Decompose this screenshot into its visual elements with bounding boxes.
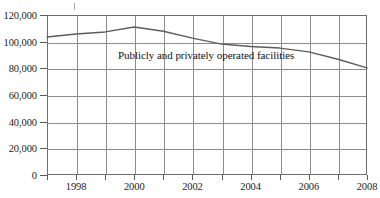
y-axis-tick-label: 80,000 — [9, 63, 37, 74]
series-annotation-label: Publicly and privately operated faciliti… — [118, 49, 294, 61]
x-axis-tick-mark — [280, 175, 281, 180]
y-axis-tick-mark — [40, 68, 47, 69]
y-axis-tick-label: 40,000 — [9, 116, 37, 127]
y-axis-tick-mark — [40, 42, 47, 43]
x-axis-tick-mark — [105, 175, 106, 180]
x-axis-tick-mark — [251, 175, 252, 180]
y-axis: 020,00040,00060,00080,000100,000120,000 — [0, 0, 47, 198]
x-axis: 199820002002200420062008 — [0, 175, 380, 198]
x-axis-tick-mark — [367, 175, 368, 180]
y-axis-tick-mark — [40, 122, 47, 123]
x-axis-tick-mark — [163, 175, 164, 180]
x-axis-tick-label: 1998 — [66, 181, 87, 192]
x-axis-tick-mark — [309, 175, 310, 180]
y-axis-tick-label: 120,000 — [4, 10, 37, 21]
top-axis-tick-mark — [74, 3, 75, 10]
x-axis-tick-mark — [134, 175, 135, 180]
series-line-publicly-and-privately-operated-facilities — [47, 27, 367, 68]
series-layer — [47, 15, 367, 175]
x-axis-tick-mark — [76, 175, 77, 180]
x-axis-tick-mark — [192, 175, 193, 180]
x-axis-tick-mark — [47, 175, 48, 180]
x-axis-tick-mark — [222, 175, 223, 180]
y-axis-tick-label: 100,000 — [4, 36, 37, 47]
line-chart: 020,00040,00060,00080,000100,000120,000 … — [0, 0, 380, 198]
y-axis-tick-label: 60,000 — [9, 90, 37, 101]
y-axis-tick-mark — [40, 95, 47, 96]
x-axis-tick-label: 2008 — [357, 181, 378, 192]
x-axis-tick-label: 2006 — [299, 181, 320, 192]
y-axis-tick-label: 20,000 — [9, 143, 37, 154]
x-axis-tick-mark — [338, 175, 339, 180]
x-axis-tick-label: 2004 — [240, 181, 261, 192]
x-axis-tick-label: 2000 — [124, 181, 145, 192]
y-axis-tick-mark — [40, 15, 47, 16]
x-axis-tick-label: 2002 — [182, 181, 203, 192]
y-axis-tick-mark — [40, 148, 47, 149]
